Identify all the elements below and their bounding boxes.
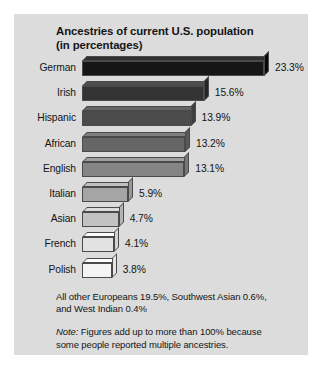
- bar-value-label: 3.8%: [123, 263, 146, 274]
- footnote-other-line-1: All other Europeans 19.5%, Southwest Asi…: [56, 291, 267, 302]
- bar-value-label: 4.7%: [130, 213, 153, 224]
- bar-front-face: [82, 137, 185, 152]
- bar-german: [82, 56, 264, 78]
- bar-side-face-shape: [119, 202, 124, 227]
- bar-side-face-shape: [191, 101, 196, 126]
- chart-title-line-2: (in percentages): [56, 38, 300, 52]
- bar-side-face: [184, 157, 189, 177]
- bar-value-label: 15.6%: [215, 87, 244, 98]
- footnote-note-line-2: some people reported multiple ancestries…: [56, 339, 228, 350]
- footnote-other-ancestries: All other Europeans 19.5%, Southwest Asi…: [56, 291, 302, 315]
- bar-value-label: 5.9%: [139, 188, 162, 199]
- bar-row: French4.1%: [14, 232, 308, 254]
- footnote-note-line-1: Figures add up to more than 100% because: [78, 326, 261, 337]
- bar-front-face: [82, 86, 204, 101]
- bar-row: Italian5.9%: [14, 182, 308, 204]
- bar-chart-plot-area: German23.3%Irish15.6%Hispanic13.9%Africa…: [14, 56, 308, 286]
- bar-side-face: [119, 207, 124, 227]
- bar-category-label: Irish: [14, 87, 76, 98]
- footnote-note-prefix: Note:: [56, 326, 78, 337]
- bar-front-face: [82, 61, 264, 76]
- bar-category-label: English: [14, 162, 76, 173]
- chart-footnotes: All other Europeans 19.5%, Southwest Asi…: [56, 291, 302, 351]
- bar-row: English13.1%: [14, 157, 308, 179]
- bar-row: Polish3.8%: [14, 258, 308, 280]
- bar-side-face-shape: [204, 76, 209, 101]
- footnote-other-line-2: and West Indian 0.4%: [56, 303, 147, 314]
- bar-category-label: African: [14, 137, 76, 148]
- bar-side-face: [114, 232, 119, 252]
- bar-row: Asian4.7%: [14, 207, 308, 229]
- bar-french: [82, 232, 114, 254]
- bar-front-face: [82, 237, 114, 252]
- bar-side-face: [204, 81, 209, 101]
- bar-front-face: [82, 263, 112, 278]
- bar-value-label: 13.1%: [195, 162, 224, 173]
- chart-panel: Ancestries of current U.S. population (i…: [14, 14, 308, 355]
- footnote-note: Note: Figures add up to more than 100% b…: [56, 326, 302, 350]
- bar-english: [82, 157, 184, 179]
- bar-hispanic: [82, 106, 191, 128]
- bar-row: African13.2%: [14, 132, 308, 154]
- bar-side-face-shape: [114, 227, 119, 252]
- bar-side-face: [128, 182, 133, 202]
- bar-side-face-shape: [185, 127, 190, 152]
- bar-side-face: [191, 106, 196, 126]
- chart-title: Ancestries of current U.S. population (i…: [56, 24, 300, 52]
- bar-row: German23.3%: [14, 56, 308, 78]
- bar-row: Irish15.6%: [14, 81, 308, 103]
- bar-side-face-shape: [264, 51, 269, 76]
- bar-side-face-shape: [128, 177, 133, 202]
- bar-value-label: 13.2%: [196, 137, 225, 148]
- bar-side-face: [185, 132, 190, 152]
- bar-irish: [82, 81, 204, 103]
- chart-title-line-1: Ancestries of current U.S. population: [56, 24, 300, 38]
- bar-italian: [82, 182, 128, 204]
- bar-polish: [82, 258, 112, 280]
- bar-front-face: [82, 187, 128, 202]
- bar-category-label: German: [14, 62, 76, 73]
- bar-category-label: French: [14, 238, 76, 249]
- bar-side-face-shape: [112, 253, 117, 278]
- bar-african: [82, 132, 185, 154]
- bar-side-face: [112, 258, 117, 278]
- bar-side-face: [264, 56, 269, 76]
- bar-front-face: [82, 162, 184, 177]
- bar-side-face-shape: [184, 152, 189, 177]
- bar-value-label: 4.1%: [125, 238, 148, 249]
- bar-category-label: Hispanic: [14, 112, 76, 123]
- bar-asian: [82, 207, 119, 229]
- bar-front-face: [82, 212, 119, 227]
- bar-row: Hispanic13.9%: [14, 106, 308, 128]
- bar-category-label: Asian: [14, 213, 76, 224]
- bar-front-face: [82, 111, 191, 126]
- bar-value-label: 13.9%: [202, 112, 231, 123]
- bar-category-label: Polish: [14, 263, 76, 274]
- bar-value-label: 23.3%: [275, 62, 304, 73]
- bar-category-label: Italian: [14, 188, 76, 199]
